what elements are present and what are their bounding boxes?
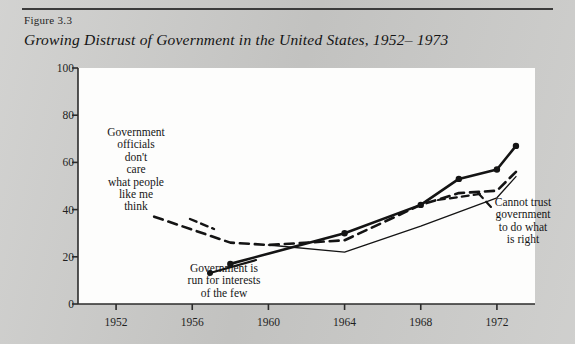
y-tick-40: 40 [44,204,74,216]
leader-officials [190,219,214,229]
y-tick-20: 20 [44,251,74,263]
x-tick-1968: 1968 [409,316,432,328]
x-tick-1956: 1956 [181,316,204,328]
annotation-interests: Government is run for interests of the f… [160,262,288,299]
series-line-0 [154,172,516,245]
series-layer [154,143,519,267]
y-tick-0: 0 [44,298,74,310]
annotation-officials: Government officials don't care what peo… [88,126,184,213]
y-tick-100: 100 [44,62,74,74]
top-rule [22,8,553,10]
data-point-marker [494,166,500,172]
data-point-marker [341,230,347,236]
figure-title: Growing Distrust of Government in the Un… [24,31,448,49]
data-point-marker [418,202,424,208]
y-tick-60: 60 [44,156,74,168]
y-axis-tick-labels: 020406080100 [40,68,74,304]
x-axis-tick-labels: 195219561960196419681972 [78,304,535,330]
y-tick-80: 80 [44,109,74,121]
x-tick-1960: 1960 [257,316,280,328]
data-point-marker [456,176,462,182]
figure-page: Figure 3.3 Growing Distrust of Governmen… [0,0,575,344]
x-tick-1964: 1964 [333,316,356,328]
data-point-marker [513,143,519,149]
x-tick-1972: 1972 [485,316,508,328]
x-tick-1952: 1952 [105,316,128,328]
series-line-1 [230,146,516,264]
figure-number: Figure 3.3 [24,14,72,26]
annotation-cannot-trust: Cannot trust government to do what is ri… [480,196,566,246]
